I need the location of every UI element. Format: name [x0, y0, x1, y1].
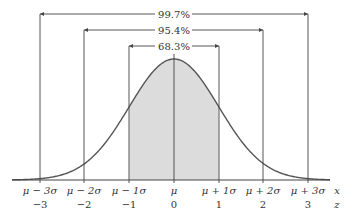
x-tick-labels: μ − 3σ μ − 2σ μ − 1σ μ μ + 1σ μ + 2σ μ +…: [23, 185, 340, 196]
z-tick: 3: [305, 199, 311, 210]
z-tick: −1: [122, 199, 137, 210]
z-tick: 1: [216, 199, 222, 210]
bracket-68-3: 68.3%: [129, 41, 219, 52]
x-tick: μ − 3σ: [23, 185, 59, 196]
label-95-4: 95.4%: [158, 25, 190, 36]
z-tick: 0: [171, 199, 177, 210]
x-axis-name: x: [334, 185, 340, 196]
bracket-95-4: 95.4%: [84, 25, 263, 36]
x-tick: μ − 1σ: [112, 185, 148, 196]
normal-distribution-diagram: 99.7% 95.4% 68.3% μ − 3σ μ − 2σ μ − 1σ μ…: [0, 0, 356, 215]
bracket-99-7: 99.7%: [40, 9, 308, 20]
label-68-3: 68.3%: [158, 41, 190, 52]
z-tick: −2: [77, 199, 92, 210]
label-99-7: 99.7%: [158, 9, 190, 20]
z-tick: −3: [33, 199, 48, 210]
z-tick: 2: [260, 199, 266, 210]
x-tick: μ − 2σ: [67, 185, 103, 196]
x-tick: μ + 3σ: [291, 185, 327, 196]
z-tick-labels: −3 −2 −1 0 1 2 3 z: [33, 199, 341, 210]
z-axis-name: z: [333, 199, 340, 210]
x-tick: μ: [171, 185, 178, 196]
x-tick: μ + 1σ: [202, 185, 238, 196]
x-tick: μ + 2σ: [246, 185, 282, 196]
